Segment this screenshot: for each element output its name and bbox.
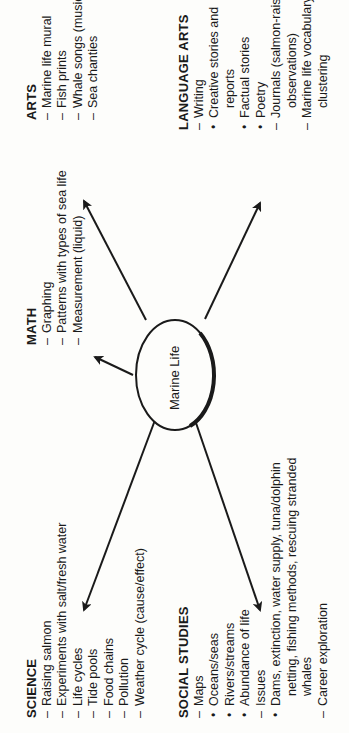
branch-arts: ARTS Marine life mural Fish prints Whale… bbox=[24, 0, 102, 120]
branch-title: SCIENCE bbox=[24, 523, 40, 718]
list-item: Patterns with types of sea life bbox=[55, 170, 71, 345]
list-item: Factual stories bbox=[238, 0, 254, 130]
list-item: Raising salmon bbox=[40, 523, 56, 718]
list-item: Marine life mural bbox=[40, 0, 56, 120]
list-item: Experiments with salt/fresh water bbox=[55, 523, 71, 718]
list-item: Journals (salmon-raising bbox=[269, 0, 285, 130]
list-item: Sea chanties bbox=[86, 0, 102, 120]
branch-title: SOCIAL STUDIES bbox=[176, 458, 192, 718]
branch-title: MATH bbox=[24, 170, 40, 345]
arrow-to-language-arts bbox=[205, 203, 260, 319]
list-item: Tide pools bbox=[86, 523, 102, 718]
list-item-continuation: whales bbox=[300, 458, 316, 718]
list-item: Career exploration bbox=[316, 458, 332, 718]
list-item-continuation: clustering bbox=[316, 0, 332, 130]
list-item: Creative stories and bbox=[207, 0, 223, 130]
list-item-continuation: netting, fishing methods, rescuing stran… bbox=[285, 458, 301, 718]
list-item: Marine life vocabulary bbox=[300, 0, 316, 130]
list-item: Graphing bbox=[40, 170, 56, 345]
list-item: Maps bbox=[192, 458, 208, 718]
list-item: Writing bbox=[192, 0, 208, 130]
branch-social-studies: SOCIAL STUDIES Maps Oceans/seas Rivers/s… bbox=[176, 458, 331, 718]
branch-language-arts: LANGUAGE ARTS Writing Creative stories a… bbox=[176, 0, 331, 130]
center-label: Marine Life bbox=[167, 346, 182, 410]
list-item: Poetry bbox=[254, 0, 270, 130]
list-item: Measurement (liquid) bbox=[71, 170, 87, 345]
list-item: Issues bbox=[254, 458, 270, 718]
list-item-continuation: reports bbox=[223, 0, 239, 130]
arrow-to-arts bbox=[84, 201, 146, 320]
list-item: Oceans/seas bbox=[207, 458, 223, 718]
list-item: Whale songs (music) bbox=[71, 0, 87, 120]
list-item: Fish prints bbox=[55, 0, 71, 120]
list-item: Weather cycle (cause/effect) bbox=[133, 523, 149, 718]
branch-science: SCIENCE Raising salmon Experiments with … bbox=[24, 523, 148, 718]
branch-title: ARTS bbox=[24, 0, 40, 120]
list-item: Rivers/streams bbox=[223, 458, 239, 718]
mind-map-canvas: Marine Life SCIENCE Raising salmon Exper… bbox=[0, 0, 349, 733]
branch-math: MATH Graphing Patterns with types of sea… bbox=[24, 170, 86, 345]
list-item: Food chains bbox=[102, 523, 118, 718]
arrow-to-math bbox=[95, 357, 133, 375]
list-item: Dams, extinction, water supply, tuna/dol… bbox=[269, 458, 285, 718]
list-item-continuation: observations) bbox=[285, 0, 301, 130]
branch-title: LANGUAGE ARTS bbox=[176, 0, 192, 130]
list-item: Abundance of life bbox=[238, 458, 254, 718]
list-item: Pollution bbox=[117, 523, 133, 718]
list-item: Life cycles bbox=[71, 523, 87, 718]
